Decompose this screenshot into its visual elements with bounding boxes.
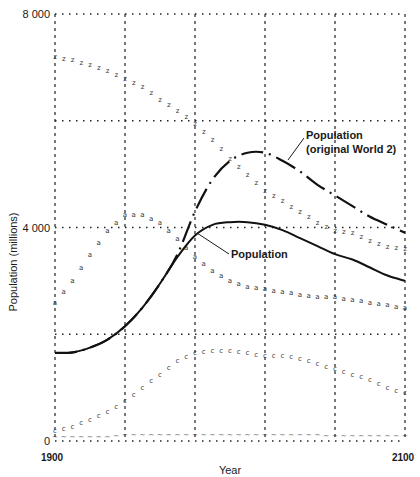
marker-a: a — [210, 267, 214, 275]
marker-z: z — [359, 233, 363, 241]
marker-z: z — [114, 71, 118, 79]
marker-c: c — [368, 376, 372, 384]
marker-n: ~ — [131, 431, 137, 439]
marker-n: ~ — [385, 432, 391, 440]
marker-z: z — [132, 79, 136, 87]
marker-a: a — [167, 227, 171, 235]
marker-a: a — [359, 297, 363, 305]
marker-n: ~ — [315, 431, 321, 439]
marker-c: c — [254, 351, 258, 359]
marker-n: ~ — [157, 431, 163, 439]
marker-z: z — [167, 101, 171, 109]
marker-c: c — [123, 397, 127, 405]
marker-z: z — [289, 203, 293, 211]
marker-z: z — [123, 75, 127, 83]
marker-n: ~ — [323, 432, 329, 440]
x-tick-1900: 1900 — [41, 452, 64, 463]
marker-c: c — [272, 352, 276, 360]
annotation-population: Population — [231, 248, 288, 260]
marker-n: ~ — [358, 432, 364, 440]
marker-c: c — [202, 348, 206, 356]
marker-z: z — [106, 67, 110, 75]
marker-z: z — [254, 179, 258, 187]
marker-a: a — [62, 288, 66, 296]
marker-z: z — [219, 145, 223, 153]
marker-c: c — [298, 355, 302, 363]
marker-n: ~ — [210, 431, 216, 439]
marker-a: a — [193, 253, 197, 261]
marker-n: ~ — [306, 431, 312, 439]
marker-z: z — [377, 240, 381, 248]
marker-c: c — [359, 373, 363, 381]
marker-n: ~ — [61, 433, 67, 441]
marker-c: c — [316, 360, 320, 368]
marker-z: z — [149, 89, 153, 97]
marker-a: a — [394, 303, 398, 311]
marker-a: a — [228, 277, 232, 285]
marker-n: ~ — [78, 433, 84, 441]
marker-a: a — [368, 299, 372, 307]
marker-c: c — [88, 416, 92, 424]
marker-z: z — [176, 107, 180, 115]
marker-c: c — [114, 403, 118, 411]
marker-c: c — [237, 348, 241, 356]
marker-c: c — [167, 364, 171, 372]
population-original-world2-line — [55, 152, 405, 353]
marker-a: a — [149, 215, 153, 223]
marker-n: ~ — [183, 431, 189, 439]
marker-c: c — [219, 347, 223, 355]
marker-c: c — [158, 371, 162, 379]
marker-c: c — [79, 419, 83, 427]
y-tick-0: 0 — [44, 435, 50, 447]
marker-n: ~ — [87, 433, 93, 441]
marker-c: c — [184, 353, 188, 361]
marker-c: c — [307, 357, 311, 365]
marker-z: z — [394, 244, 398, 252]
marker-z: z — [141, 83, 145, 91]
x-tick-2100: 2100 — [392, 452, 415, 463]
marker-a: a — [307, 292, 311, 300]
marker-a: a — [403, 304, 407, 312]
marker-z: z — [97, 64, 101, 72]
marker-n: ~ — [192, 431, 198, 439]
marker-c: c — [246, 349, 250, 357]
marker-n: ~ — [262, 431, 268, 439]
marker-c: c — [351, 371, 355, 379]
marker-c: c — [403, 389, 407, 397]
marker-c: c — [377, 380, 381, 388]
marker-a: a — [272, 287, 276, 295]
marker-n: ~ — [271, 431, 277, 439]
marker-a: a — [333, 293, 337, 301]
marker-c: c — [394, 387, 398, 395]
marker-a: a — [202, 260, 206, 268]
marker-c: c — [228, 347, 232, 355]
marker-c: c — [141, 384, 145, 392]
marker-n: ~ — [402, 432, 408, 440]
marker-a: a — [105, 227, 109, 235]
marker-n: ~ — [175, 431, 181, 439]
marker-n: ~ — [245, 431, 251, 439]
marker-c: c — [324, 363, 328, 371]
marker-z: z — [158, 96, 162, 104]
marker-a: a — [53, 299, 57, 307]
marker-a: a — [377, 300, 381, 308]
marker-z: z — [316, 219, 320, 227]
marker-z: z — [324, 223, 328, 231]
marker-z: z — [79, 59, 83, 67]
marker-n: ~ — [376, 432, 382, 440]
marker-a: a — [219, 272, 223, 280]
marker-a: a — [114, 219, 118, 227]
marker-c: c — [333, 365, 337, 373]
y-axis-title: Population (millions) — [7, 212, 19, 311]
marker-z: z — [246, 171, 250, 179]
marker-n: ~ — [280, 431, 286, 439]
marker-n: ~ — [350, 432, 356, 440]
marker-a: a — [158, 219, 162, 227]
marker-c: c — [97, 412, 101, 420]
marker-n: ~ — [393, 432, 399, 440]
marker-z: z — [307, 213, 311, 221]
marker-c: c — [176, 357, 180, 365]
marker-z: z — [351, 229, 355, 237]
marker-a: a — [123, 211, 127, 219]
marker-n: ~ — [166, 431, 172, 439]
